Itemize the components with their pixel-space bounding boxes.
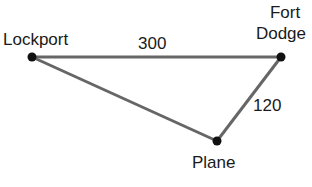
label-edge-120: 120 — [253, 96, 281, 115]
point-plane — [213, 137, 222, 146]
label-lockport: Lockport — [3, 30, 68, 49]
point-lockport — [28, 53, 37, 62]
point-fort-dodge — [277, 53, 286, 62]
label-plane: Plane — [192, 153, 235, 172]
label-dodge: Dodge — [251, 24, 311, 43]
label-edge-300: 300 — [138, 34, 166, 53]
label-fort: Fort — [257, 3, 312, 22]
edge-lockport-plane — [32, 57, 217, 141]
